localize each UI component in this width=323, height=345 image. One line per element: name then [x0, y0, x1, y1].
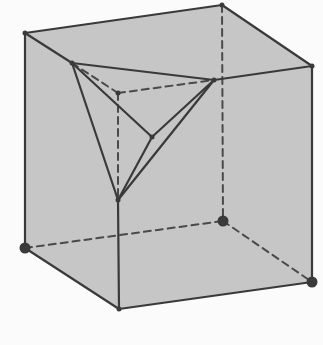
cube-figure — [0, 0, 323, 345]
cube-diagram — [0, 0, 323, 345]
vertex-top-left — [23, 31, 28, 36]
vertex-top-front-hidden — [116, 91, 121, 96]
vertex-cut-left — [70, 61, 75, 66]
vertex-cut-inner — [150, 135, 155, 140]
cube-faces — [25, 5, 312, 309]
vertex-top-right — [310, 64, 315, 69]
vertex-cut-right — [212, 78, 217, 83]
vertex-cut-bottom — [116, 198, 121, 203]
vertex-bottom-front — [117, 307, 122, 312]
edge-front-vertical — [118, 200, 119, 309]
vertex-bottom-right — [307, 277, 318, 288]
vertex-bottom-left — [20, 243, 31, 254]
vertex-bottom-back-hidden — [218, 216, 229, 227]
vertex-top-back — [220, 3, 225, 8]
